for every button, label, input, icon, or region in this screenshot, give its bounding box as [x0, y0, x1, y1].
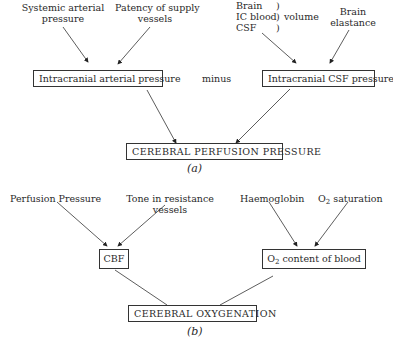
- text-line: vessels: [125, 204, 215, 215]
- o2-content-of-blood-box: O2 content of blood: [262, 249, 366, 269]
- text-line: elastance: [328, 17, 378, 28]
- brace-paren: ))): [276, 0, 280, 33]
- input-haemoglobin: Haemoglobin: [240, 193, 304, 204]
- text-line: vessels: [115, 13, 195, 24]
- text-line: Brain: [236, 0, 277, 11]
- input-tone-resistance-vessels: Tone in resistance vessels: [125, 193, 215, 215]
- cerebral-oxygenation-box: CEREBRAL OXYGENATION: [128, 305, 257, 322]
- minus-operator: minus: [202, 73, 231, 84]
- text-line: IC blood: [236, 11, 277, 22]
- text-line: Patency of supply: [115, 2, 195, 13]
- intracranial-arterial-pressure-box: Intracranial arterial pressure: [33, 70, 163, 87]
- intracranial-csf-pressure-box: Intracranial CSF pressure: [262, 70, 375, 87]
- text-line: Systemic arterial: [8, 2, 118, 13]
- input-volume-components: Brain IC blood CSF: [236, 0, 277, 33]
- input-systemic-arterial-pressure: Systemic arterial pressure: [8, 2, 118, 24]
- text-line: Brain: [328, 6, 378, 17]
- input-brain-elastance: Brain elastance: [328, 6, 378, 28]
- text-line: Tone in resistance: [125, 193, 215, 204]
- diagram-label-b: (b): [187, 325, 203, 338]
- input-patency-supply-vessels: Patency of supply vessels: [115, 2, 195, 24]
- connector-arrows: [0, 0, 393, 353]
- text-line: pressure: [8, 13, 118, 24]
- text-line: CSF: [236, 22, 277, 33]
- volume-label: volume: [284, 11, 319, 22]
- text-o: O: [318, 193, 326, 204]
- text-suffix: content of blood: [279, 253, 360, 264]
- input-perfusion-pressure: Perfusion Pressure: [10, 193, 101, 204]
- cbf-box: CBF: [99, 249, 129, 269]
- diagram-label-a: (a): [187, 162, 202, 175]
- text-suffix: saturation: [330, 193, 382, 204]
- cerebral-perfusion-pressure-box: CEREBRAL PERFUSION PRESSURE: [126, 143, 283, 160]
- input-o2-saturation: O2 saturation: [318, 193, 383, 204]
- text-o: O: [267, 253, 275, 264]
